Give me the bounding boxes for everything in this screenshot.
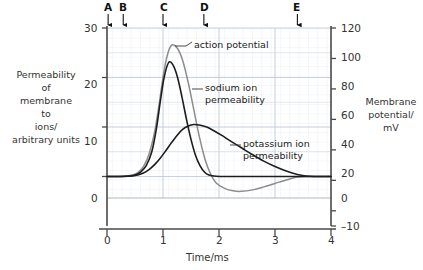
left-axis-title-line2: of [8, 82, 84, 93]
right-ytick-0: 0 [341, 192, 348, 204]
marker-label-a: A [104, 1, 112, 13]
left-ytick-20: 20 [84, 78, 97, 90]
xtick-4: 4 [328, 234, 335, 246]
marker-label-b: B [119, 1, 127, 13]
marker-label-d: D [200, 1, 209, 13]
right-ytick-20: 20 [341, 167, 354, 179]
x-axis-title: Time/ms [186, 252, 229, 264]
annotation-sodium-line1: sodium ion [205, 82, 257, 93]
xtick-0: 0 [104, 234, 111, 246]
right-axis-title-line1: Membrane [360, 96, 422, 107]
annotation-sodium-line2: permeability [205, 94, 265, 105]
left-axis-title-line4: to [8, 108, 84, 119]
annotation-action-potential: action potential [194, 39, 269, 50]
xtick-2: 2 [216, 234, 223, 246]
right-axis-title-line3: mV [360, 122, 422, 133]
right-ytick-60: 60 [341, 109, 354, 121]
marker-label-e: E [293, 1, 300, 13]
right-ytick-120: 120 [341, 22, 361, 34]
right-ytick-100: 100 [341, 51, 361, 63]
left-axis-title-line6: arbitrary units [2, 134, 90, 145]
left-axis-title-line3: membrane [8, 95, 84, 106]
right-ytick-80: 80 [341, 80, 354, 92]
annotation-potassium-line2: permeability [243, 150, 303, 161]
action-potential-chart: A B C D E 30 20 10 0 120 100 80 60 40 20… [0, 0, 423, 270]
left-axis-title-line1: Permeability [8, 69, 84, 80]
right-ytick-40: 40 [341, 138, 354, 150]
annotation-potassium-line1: potassium ion [243, 138, 310, 149]
left-ytick-30: 30 [84, 22, 97, 34]
xtick-1: 1 [160, 234, 167, 246]
right-ytick-minus10: –10 [341, 220, 360, 232]
stage-markers [108, 14, 297, 25]
xtick-3: 3 [272, 234, 279, 246]
marker-label-c: C [160, 1, 168, 13]
left-axis-title-line5: ions/ [8, 121, 84, 132]
right-axis-title-line2: potential/ [360, 109, 422, 120]
left-ytick-0: 0 [91, 192, 98, 204]
